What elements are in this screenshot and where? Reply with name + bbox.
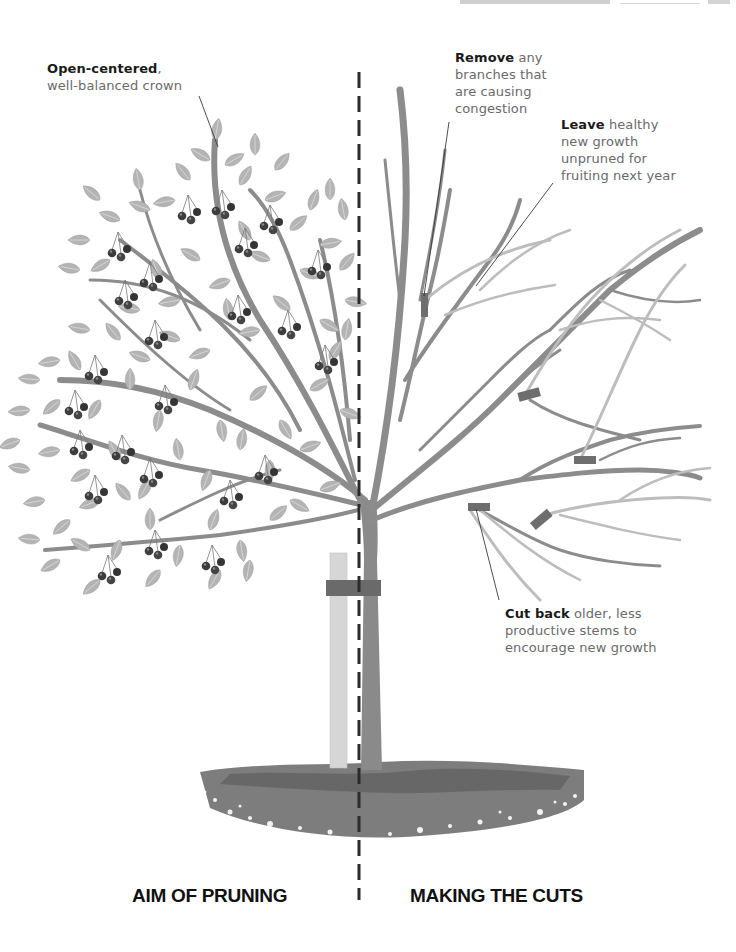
cut-mark	[421, 293, 428, 317]
annotation-open-centered-comma: ,	[157, 61, 161, 76]
annotation-leave: Leave healthy new growth unpruned for fr…	[561, 116, 701, 184]
annotation-remove-line-4: congestion	[455, 101, 527, 116]
right-new-growth	[425, 230, 710, 600]
annotation-remove-line-1: any	[518, 50, 542, 65]
cut-mark	[468, 503, 490, 511]
annotation-leave-line-4: fruiting next year	[561, 168, 676, 183]
annotation-cut-back: Cut back older, less productive stems to…	[505, 605, 705, 656]
trunk	[360, 500, 382, 770]
annotation-leave-line-3: unpruned for	[561, 151, 647, 166]
annotation-open-centered: Open-centered, well-balanced crown	[47, 60, 237, 94]
annotation-cut-back-line-3: encourage new growth	[505, 640, 657, 655]
cherry-clusters	[65, 190, 338, 584]
annotation-cut-back-line-1: older, less	[574, 606, 642, 621]
annotation-leave-line-2: new growth	[561, 134, 638, 149]
annotation-open-centered-text: well-balanced crown	[47, 78, 182, 93]
annotation-remove-line-2: branches that	[455, 67, 547, 82]
annotation-remove-bold: Remove	[455, 50, 514, 65]
tree-tie	[326, 580, 381, 596]
left-crown-leaves	[0, 117, 368, 597]
cut-mark	[574, 456, 596, 464]
soil-mound	[200, 761, 584, 838]
cut-mark	[530, 509, 553, 530]
annotation-remove: Remove any branches that are causing con…	[455, 49, 555, 117]
annotation-open-centered-bold: Open-centered	[47, 61, 157, 76]
section-label-making-the-cuts: MAKING THE CUTS	[410, 885, 583, 907]
annotation-cut-back-line-2: productive stems to	[505, 623, 637, 638]
annotation-leave-line-1: healthy	[609, 117, 659, 132]
annotation-remove-line-3: are causing	[455, 84, 532, 99]
section-label-aim-of-pruning: AIM OF PRUNING	[132, 885, 287, 907]
annotation-leave-bold: Leave	[561, 117, 605, 132]
annotation-cut-back-bold: Cut back	[505, 606, 570, 621]
